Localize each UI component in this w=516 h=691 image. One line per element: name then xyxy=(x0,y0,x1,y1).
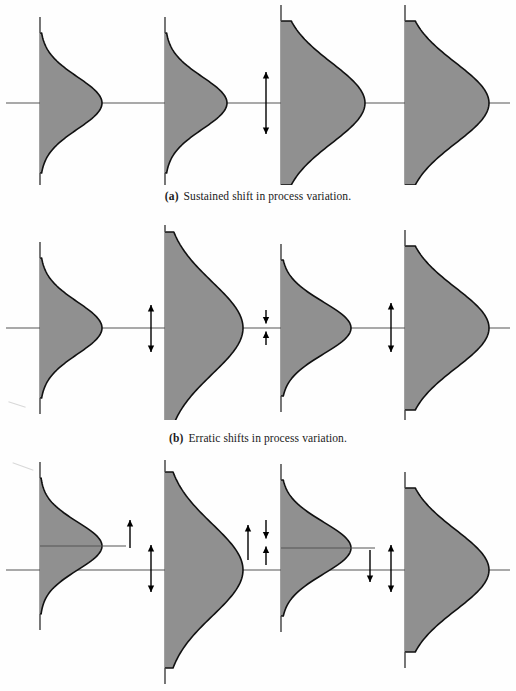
gaussian-area xyxy=(405,488,489,652)
distribution-curve xyxy=(405,472,489,668)
caption-a: (a)Sustained shift in process variation. xyxy=(0,190,516,202)
arrow-head-up xyxy=(263,128,269,135)
gaussian-area xyxy=(40,258,102,398)
distribution-curve xyxy=(40,17,102,185)
caption-b-text: Erratic shifts in process variation. xyxy=(183,432,347,444)
distribution-curve xyxy=(281,244,351,412)
distribution-curve xyxy=(405,230,489,420)
gaussian-area xyxy=(165,33,227,173)
arrow-head-up xyxy=(148,586,154,593)
arrow-head-down xyxy=(245,525,251,532)
caption-a-label: (a) xyxy=(165,190,179,202)
gaussian-area xyxy=(281,21,365,185)
panel-c xyxy=(0,460,516,691)
panel-a-chart xyxy=(0,0,516,185)
shift-arrow xyxy=(148,545,154,592)
panel-b-chart xyxy=(0,225,516,420)
caption-b-label: (b) xyxy=(169,432,183,444)
shift-arrow xyxy=(388,545,394,592)
distribution-curve xyxy=(40,242,102,414)
arrow-head-down xyxy=(263,547,269,554)
arrow-head-up xyxy=(263,532,269,539)
gaussian-area xyxy=(405,21,489,185)
distribution-curve xyxy=(165,460,243,684)
caption-b: (b)Erratic shifts in process variation. xyxy=(0,432,516,444)
shift-arrow xyxy=(367,550,373,582)
arrow-head-down xyxy=(148,545,154,552)
distribution-curve xyxy=(405,5,489,185)
gaussian-area xyxy=(405,246,489,410)
arrow-head-down xyxy=(263,72,269,79)
panel-c-chart xyxy=(0,460,516,691)
arrow-head-down xyxy=(127,520,133,527)
arrow-head-up xyxy=(148,346,154,353)
gaussian-area xyxy=(165,232,243,420)
arrow-head-down xyxy=(388,545,394,552)
process-variation-figure: (a)Sustained shift in process variation.… xyxy=(0,0,516,691)
shift-arrow xyxy=(245,525,251,560)
arrow-head-down xyxy=(388,303,394,310)
distribution-curve xyxy=(281,5,365,185)
gaussian-area xyxy=(281,260,351,396)
arrow-head-up xyxy=(263,317,269,324)
distribution-curve xyxy=(165,17,227,185)
gaussian-area xyxy=(165,472,243,668)
arrow-head-down xyxy=(263,332,269,339)
arrow-head-up xyxy=(388,586,394,593)
gaussian-area xyxy=(40,33,102,173)
shift-arrow xyxy=(263,520,269,565)
distribution-curve xyxy=(40,462,126,630)
panel-a xyxy=(0,0,516,185)
arrow-head-up xyxy=(388,346,394,353)
arrow-head-up xyxy=(367,576,373,583)
distribution-curve xyxy=(165,225,243,420)
arrow-head-down xyxy=(148,305,154,312)
panel-b xyxy=(0,225,516,420)
shift-arrow xyxy=(127,520,133,548)
caption-a-text: Sustained shift in process variation. xyxy=(179,190,352,202)
distribution-curve xyxy=(281,464,375,632)
